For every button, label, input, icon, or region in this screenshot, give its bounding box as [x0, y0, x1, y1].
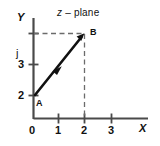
y-tick-label-1: 2 — [18, 90, 24, 101]
y-axis-label: Y — [17, 12, 24, 23]
figure-title: z – plane — [57, 8, 99, 18]
point-label-b: B — [90, 28, 97, 37]
point-label-a: A — [36, 99, 43, 108]
x-tick-label-1: 1 — [55, 125, 61, 136]
figure-title-rest: – plane — [62, 7, 99, 18]
x-tick-label-3: 3 — [108, 125, 114, 136]
vector-ab-shaft — [35, 37, 82, 95]
z-plane-figure: z – plane Y X j 3 2 0 1 2 3 A B — [0, 0, 160, 146]
x-tick-label-2: 2 — [81, 125, 87, 136]
y-tick-label-2: 3 — [18, 59, 24, 70]
origin-tick-label: 0 — [29, 125, 35, 136]
x-axis-label: X — [139, 123, 146, 134]
